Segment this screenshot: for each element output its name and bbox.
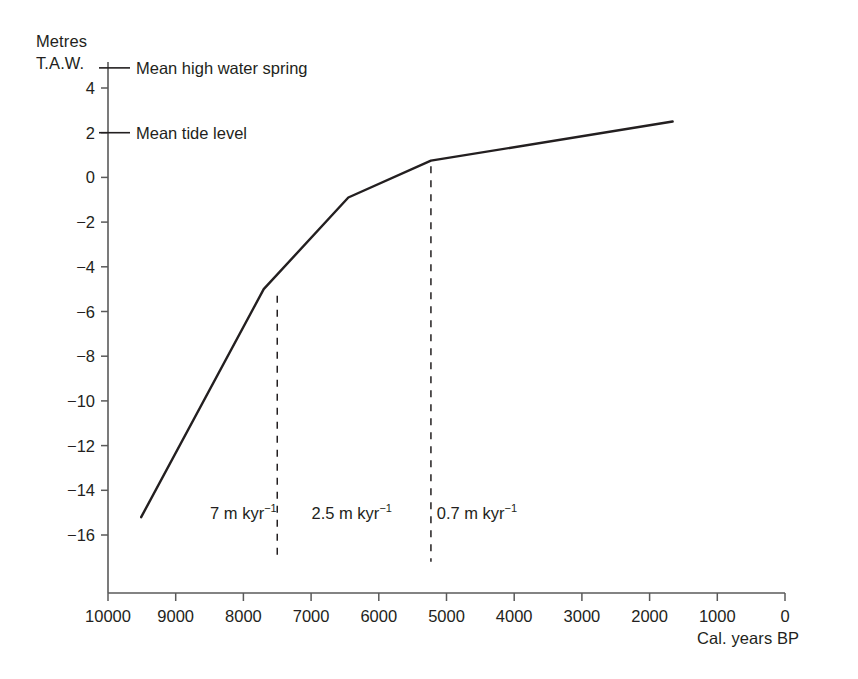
- x-tick-label-1000: 1000: [699, 607, 736, 626]
- y-tick-label-2: 2: [0, 123, 95, 142]
- data-series-group: [141, 122, 672, 518]
- x-axis-title: Cal. years BP: [697, 629, 799, 648]
- y-tick-label-minus2: −2: [0, 213, 95, 232]
- rate-annotation-rate-0-7: 0.7 m kyr−1: [437, 503, 517, 522]
- rate-0-7-unit: m kyr: [460, 503, 505, 521]
- y-tick-label-minus6: −6: [0, 302, 95, 321]
- y-axis-title-line2: T.A.W.: [36, 52, 87, 74]
- x-tick-label-10000: 10000: [85, 607, 131, 626]
- y-axis-title-line1: Metres: [36, 30, 87, 52]
- y-tick-label-minus14: −14: [0, 481, 95, 500]
- reference-label-mean-tide-level: Mean tide level: [136, 123, 247, 142]
- rate-7-unit: m kyr: [219, 503, 264, 521]
- x-tick-label-0: 0: [780, 607, 789, 626]
- x-tick-label-8000: 8000: [225, 607, 262, 626]
- y-axis-title: Metres T.A.W.: [36, 30, 87, 74]
- reference-label-mean-high-water-spring: Mean high water spring: [136, 58, 308, 77]
- rate-annotation-rate-2-5: 2.5 m kyr−1: [312, 503, 392, 522]
- y-tick-label-minus10: −10: [0, 391, 95, 410]
- plot-canvas: [0, 0, 858, 679]
- rate-2-5-value: 2.5: [312, 503, 335, 521]
- rate-0-7-value: 0.7: [437, 503, 460, 521]
- x-tick-label-5000: 5000: [428, 607, 465, 626]
- x-tick-label-6000: 6000: [360, 607, 397, 626]
- y-tick-label-minus8: −8: [0, 347, 95, 366]
- series-line-0: [141, 122, 672, 518]
- rate-2-5-exponent: −1: [379, 502, 392, 514]
- y-tick-label-minus16: −16: [0, 526, 95, 545]
- rate-7-value: 7: [210, 503, 219, 521]
- sea-level-curve-figure: Metres T.A.W. Cal. years BP 420−2−4−6−8−…: [0, 0, 858, 679]
- x-tick-label-7000: 7000: [293, 607, 330, 626]
- rate-annotation-rate-7: 7 m kyr−1: [210, 503, 277, 522]
- y-tick-label-4: 4: [0, 79, 95, 98]
- y-tick-label-minus12: −12: [0, 436, 95, 455]
- y-tick-label-0: 0: [0, 168, 95, 187]
- x-tick-label-4000: 4000: [496, 607, 533, 626]
- x-tick-label-3000: 3000: [564, 607, 601, 626]
- x-tick-label-2000: 2000: [631, 607, 668, 626]
- rate-0-7-exponent: −1: [505, 502, 518, 514]
- rate-7-exponent: −1: [264, 502, 277, 514]
- x-tick-label-9000: 9000: [157, 607, 194, 626]
- y-tick-label-minus4: −4: [0, 257, 95, 276]
- reference-ticks-group: [99, 68, 130, 133]
- rate-2-5-unit: m kyr: [334, 503, 379, 521]
